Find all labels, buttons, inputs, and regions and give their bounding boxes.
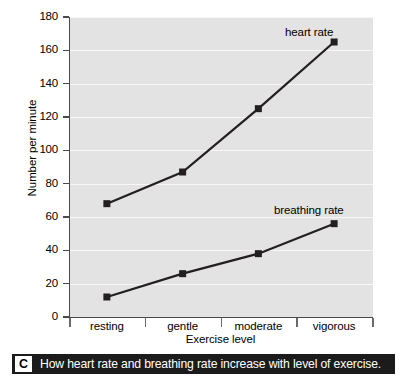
series-layer — [0, 0, 407, 348]
x-axis-title: Exercise level — [69, 333, 372, 345]
data-point-marker — [103, 200, 110, 207]
data-point-marker — [255, 250, 262, 257]
caption-letter: C — [15, 356, 32, 372]
caption-text: How heart rate and breathing rate increa… — [40, 357, 381, 371]
series-label-breathing-rate: breathing rate — [274, 204, 344, 216]
data-point-marker — [255, 105, 262, 112]
chart-figure: Number per minute 1801601401201008060402… — [0, 0, 407, 348]
data-point-marker — [179, 169, 186, 176]
series-line-heart-rate — [107, 42, 334, 204]
data-point-marker — [331, 220, 338, 227]
data-point-marker — [331, 39, 338, 46]
series-line-breathing-rate — [107, 224, 334, 297]
series-label-heart-rate: heart rate — [285, 26, 333, 38]
data-point-marker — [103, 294, 110, 301]
caption-bar: C How heart rate and breathing rate incr… — [12, 354, 395, 374]
data-point-marker — [179, 270, 186, 277]
